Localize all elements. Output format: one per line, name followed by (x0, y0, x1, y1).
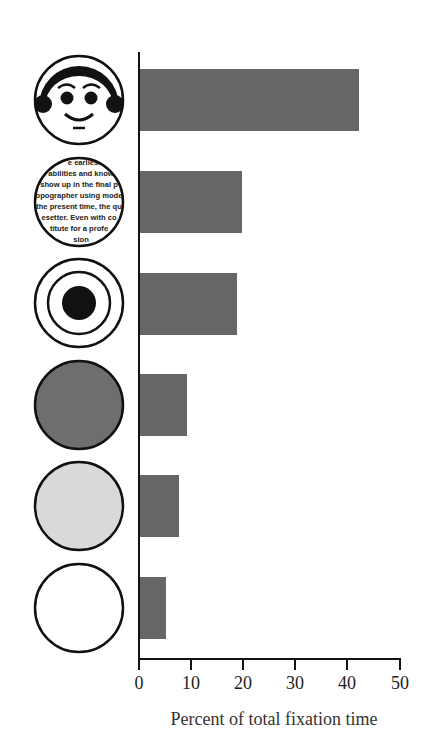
bar-light-gray-disc (140, 475, 179, 537)
x-tick-label: 40 (327, 673, 367, 694)
text-snippet-icon: e earlies abilities and know show up in … (33, 156, 125, 248)
x-tick (399, 660, 401, 670)
x-tick-label: 50 (380, 673, 420, 694)
svg-text:titute for a profe: titute for a profe (50, 224, 108, 233)
bar-white-disc (140, 577, 166, 639)
svg-text:abilities and know: abilities and know (48, 169, 113, 178)
concentric-circles-icon (33, 257, 125, 349)
bar-text (140, 171, 242, 233)
x-tick-label: 10 (171, 673, 211, 694)
x-axis-line (138, 658, 401, 660)
bar-dark-gray-disc (140, 374, 187, 436)
light-gray-disc-icon (33, 460, 125, 552)
chart: e earlies abilities and know show up in … (0, 0, 433, 750)
bar-concentric-circles (140, 273, 237, 335)
svg-text:esetter. Even with co: esetter. Even with co (41, 213, 116, 222)
x-tick-label: 20 (223, 673, 263, 694)
x-tick (294, 660, 296, 670)
svg-text:sion: sion (73, 235, 89, 244)
x-tick-label: 30 (275, 673, 315, 694)
x-tick (138, 660, 140, 670)
face-icon (33, 54, 125, 146)
x-tick (346, 660, 348, 670)
x-tick (242, 660, 244, 670)
svg-text:show up in the final p: show up in the final p (40, 180, 118, 189)
svg-text:the present time, the qu: the present time, the qu (36, 202, 122, 211)
x-tick-label: 0 (119, 673, 159, 694)
dark-gray-disc-icon (33, 359, 125, 451)
white-disc-icon (33, 562, 125, 654)
x-tick (190, 660, 192, 670)
y-axis-line (138, 52, 140, 660)
bar-face (140, 69, 359, 131)
x-axis-title: Percent of total fixation time (139, 709, 409, 730)
svg-text:opographer using mode: opographer using mode (36, 191, 123, 200)
